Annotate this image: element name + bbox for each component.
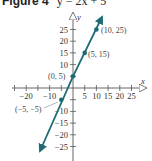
x-tick-label: 20 (116, 91, 125, 101)
x-tick-label: 5 (83, 91, 87, 101)
point-5-15 (82, 51, 87, 56)
point-10-25 (94, 27, 99, 32)
y-tick-label: −15 (55, 118, 68, 128)
point-label: (5, 15) (88, 50, 110, 59)
y-tick-label: 10 (60, 60, 69, 70)
point-label: (−5, −5) (15, 105, 42, 114)
chart-canvas: −20 −10 5 10 15 20 25 x 25 20 15 10 −10 … (0, 0, 152, 161)
y-axis-label: y (76, 12, 81, 22)
point-label: (0, 5) (48, 72, 66, 81)
y-tick-label: 20 (60, 36, 69, 46)
x-tick-label: −10 (43, 91, 56, 101)
y-tick-label: 15 (60, 48, 69, 58)
x-tick-label: 10 (92, 91, 101, 101)
x-tick-label: −20 (20, 91, 33, 101)
point-0-5 (71, 74, 76, 79)
x-tick-label: 25 (127, 91, 136, 101)
x-tick-label: 15 (104, 91, 113, 101)
x-axis-label: x (140, 76, 145, 86)
y-tick-label: −25 (55, 142, 68, 152)
y-tick-label: −20 (55, 130, 68, 140)
point-label: (10, 25) (101, 26, 127, 35)
x-axis: −20 −10 5 10 15 20 25 x (12, 76, 146, 101)
point-neg5-neg5 (59, 97, 64, 102)
y-tick-label: 25 (60, 25, 69, 35)
line-series (40, 17, 102, 151)
